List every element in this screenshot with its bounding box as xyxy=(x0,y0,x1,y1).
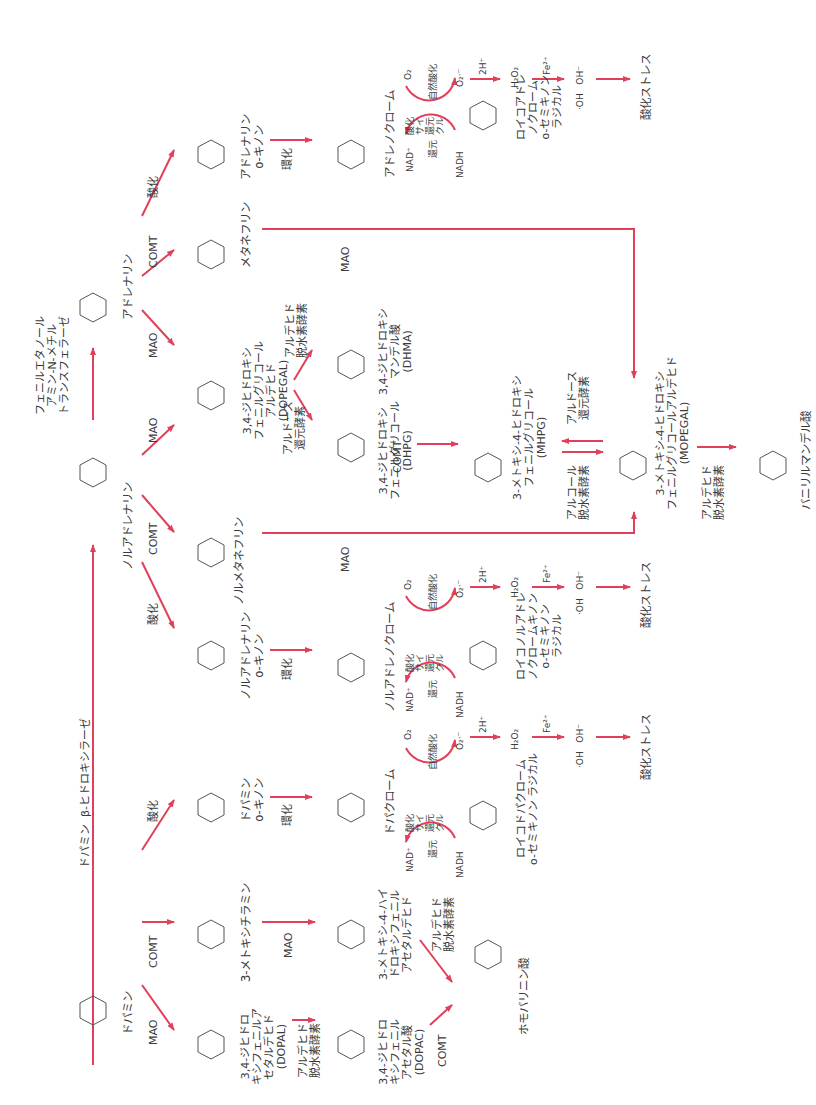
label-3mt-mao: MAO xyxy=(283,933,295,958)
oxidative-stress-adr: 酸化ストレス xyxy=(640,54,653,120)
2h-nor: 2H⁺ xyxy=(478,566,488,583)
o2-adr: O₂ xyxy=(403,69,413,80)
mol-dopegal xyxy=(198,381,224,410)
label-dopac-comt: COMT xyxy=(437,1034,449,1067)
mol-dopachrome xyxy=(338,793,364,822)
compound-metanephrine: メタネフリン xyxy=(240,202,253,268)
pathway-diagram: ドパミン β-ヒドロキシラーゼ フェニルエタノール アミン-N-メチル トランス… xyxy=(0,0,816,1105)
compound-leuconoradrenochrome: ロイコノルアドレ ノクロームキノン o-セミキノン ラジカル xyxy=(516,592,564,680)
autoox-dop: 自然酸化 xyxy=(428,734,438,770)
autoox-adr: 自然酸化 xyxy=(428,64,438,100)
arrow-dopac-hva xyxy=(430,1005,452,1025)
compound-leucodopachrome: ロイコドパクローム o-セミキノン ラジカル xyxy=(516,753,540,865)
hydroxyl-nor: ·OH OH⁻ xyxy=(575,571,585,615)
redox-cycle-adr: 酸化 サイ 還元 クル xyxy=(405,117,445,135)
mol-normetanephrine xyxy=(198,538,224,567)
compound-dopegal: 3,4-ジヒドロキシ フェニルグリコール アルデヒド (DOPEGAL) xyxy=(242,341,290,440)
mol-hva xyxy=(475,940,501,969)
label-alcohol-dh: アルコール 脱水素酵素 xyxy=(567,465,591,520)
mol-dhma xyxy=(338,350,364,379)
reduction-nor: 還元 xyxy=(428,680,438,698)
compound-dopamine: ドパミン xyxy=(122,991,135,1035)
compound-adrenochrome: アドレノクローム xyxy=(384,90,397,178)
nad-nor: NAD⁺ xyxy=(405,687,415,712)
compound-dopachrome: ドパクローム xyxy=(384,769,397,835)
2h-adr: 2H⁺ xyxy=(478,58,488,75)
nad-dop: NAD⁺ xyxy=(405,847,415,872)
mol-dhpg xyxy=(338,433,364,462)
mol-adrenaline xyxy=(80,293,106,322)
fe2-adr: Fe²⁺ xyxy=(542,56,552,75)
label-aldose-reductase: アルドース 還元酵素 xyxy=(567,371,591,425)
compound-adrenaline: アドレナリン xyxy=(122,254,135,320)
mol-leuconoradrenochrome xyxy=(470,641,496,670)
label-nor-comt: COMT xyxy=(148,522,160,555)
mol-dopac xyxy=(338,1030,364,1059)
reduction-dop: 還元 xyxy=(428,840,438,858)
label-metanephrine-mao: MAO xyxy=(340,247,352,272)
label-dop-oxidation: 酸化 xyxy=(148,800,160,822)
label-pnmt: フェニルエタノール アミン-N-メチル トランスフェラーゼ xyxy=(35,316,71,415)
autoox-nor: 自然酸化 xyxy=(428,574,438,610)
h2o2-nor: H₂O₂ xyxy=(510,577,520,598)
oxidative-stress-dop: 酸化ストレス xyxy=(640,714,653,780)
compound-vma: バニリルマンデル酸 xyxy=(800,411,813,510)
compound-dhpg: 3,4-ジヒドロキシ フェニルグリコール (DHPG) xyxy=(378,401,414,500)
mol-nor-quinone xyxy=(198,641,224,670)
arrow-metanephrine-mopegal xyxy=(262,229,634,378)
reduction-adr: 還元 xyxy=(428,140,438,158)
compound-dhma: 3,4-ジヒドロキシ マンデル酸 (DHMA) xyxy=(378,308,414,395)
mol-mhpa xyxy=(338,920,364,949)
compound-hva: ホモバリニン酸 xyxy=(518,958,531,1035)
oxidative-stress-nor: 酸化ストレス xyxy=(640,562,653,628)
compound-mhpg: 3-メトキシ-4-ヒドロキシ フェニルグリコール (MHPG) xyxy=(512,375,548,500)
fe2-dop: Fe²⁺ xyxy=(542,714,552,733)
label-mopegal-aldh: アルデヒド 脱水素酵素 xyxy=(702,465,726,520)
h2o2-adr: H₂O₂ xyxy=(510,67,520,88)
o2-dop: O₂ xyxy=(403,729,413,740)
compound-dopal: 3,4-ジヒドロ キシフェニルア セタルデヒド (DOPAL) xyxy=(240,1008,288,1085)
compound-noradrenaline: ノルアドレナリン xyxy=(122,482,135,570)
2h-dop: 2H⁺ xyxy=(478,716,488,733)
label-adr-cyclization: 環化 xyxy=(282,148,294,170)
label-dop-cyclization: 環化 xyxy=(282,804,294,826)
label-nor-oxidation: 酸化 xyxy=(148,603,160,625)
nadh-adr: NADH xyxy=(455,151,465,178)
label-adr-mao: MAO xyxy=(148,333,160,358)
hydroxyl-adr: ·OH OH⁻ xyxy=(575,66,585,110)
compound-methoxytyramine: 3-メトキシチラミン xyxy=(240,883,253,982)
label-adr-oxidation: 酸化 xyxy=(148,176,160,198)
mol-dop-quinone xyxy=(198,793,224,822)
superoxide-dop: O₂·⁻ xyxy=(455,732,465,750)
label-dop-mao: MAO xyxy=(148,1020,160,1045)
compound-mopegal: 3-メトキシ-4-ヒドロキシ フェニルグリコールアルデヒド (MOPEGAL) xyxy=(655,356,691,510)
mol-metanephrine xyxy=(198,240,224,269)
mol-vma xyxy=(760,451,786,480)
label-nor-mao: MAO xyxy=(148,418,160,443)
label-nor-cyclization: 環化 xyxy=(282,658,294,680)
compound-normetanephrine: ノルメタネフリン xyxy=(233,517,246,605)
mol-dopal xyxy=(198,1030,224,1059)
mol-noradrenaline xyxy=(80,458,106,487)
label-dopal-aldh: アルデヒド 脱水素酵素 xyxy=(298,1023,322,1078)
nadh-nor: NADH xyxy=(455,691,465,718)
mol-leucoadrenochrome xyxy=(470,101,496,130)
redox-cycle-nor: 酸化 サイ 還元 クル xyxy=(405,654,445,672)
superoxide-nor: O₂·⁻ xyxy=(455,580,465,598)
hydroxyl-dop: ·OH OH⁻ xyxy=(575,724,585,768)
nadh-dop: NADH xyxy=(455,851,465,878)
compound-noradrenochrome: ノルアドレノクローム xyxy=(384,602,397,712)
superoxide-adr: O₂·⁻ xyxy=(455,69,465,87)
mol-mhpg xyxy=(475,453,501,482)
label-dop-comt: COMT xyxy=(148,935,160,968)
compound-nor-quinone: ノルアドレナリン o-キノン xyxy=(240,612,265,700)
compound-dop-quinone: ドパミン o-キノン xyxy=(240,778,265,822)
compound-adr-quinone: アドレナリン o-キノン xyxy=(240,114,265,180)
mol-adrenochrome xyxy=(338,140,364,169)
mol-methoxytyramine xyxy=(198,920,224,949)
nad-adr: NAD⁺ xyxy=(405,147,415,172)
compound-mhpa: 3-メトキシ-4-ハイ ドロキシフェニル アセタルデヒド xyxy=(378,888,414,980)
label-dbh: ドパミン β-ヒドロキシラーゼ xyxy=(80,718,92,868)
label-normetanephrine-mao: MAO xyxy=(340,547,352,572)
h2o2-dop: H₂O₂ xyxy=(510,729,520,750)
